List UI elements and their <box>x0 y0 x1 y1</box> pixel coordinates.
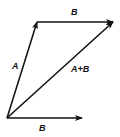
label-a: A <box>12 62 19 71</box>
vector-a-plus-b-arrow <box>7 22 113 118</box>
label-b-top: B <box>71 8 78 17</box>
vector-addition-diagram: B A A+B B <box>0 0 120 137</box>
label-a-plus-b: A+B <box>71 65 89 74</box>
label-b-bottom: B <box>39 124 46 133</box>
